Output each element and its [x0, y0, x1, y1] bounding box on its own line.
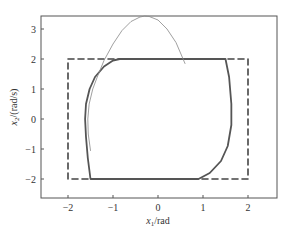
x-tick-label: 2 [246, 202, 251, 213]
plot-area [41, 16, 277, 198]
x-tick-label: 1 [201, 202, 206, 213]
y-tick-label: −1 [25, 144, 36, 155]
x-axis-label: x1/rad [145, 215, 170, 228]
y-tick-label: 2 [31, 54, 36, 65]
phase-portrait-chart: −2−1012 −2−10123 x1/rad x2/(rad/s) [0, 0, 287, 238]
y-tick-label: 0 [31, 114, 36, 125]
x-tick-label: −1 [108, 202, 119, 213]
y-axis-label: x2/(rad/s) [8, 89, 21, 127]
y-tick-label: 3 [31, 24, 36, 35]
y-tick-label: 1 [31, 84, 36, 95]
x-tick-label: −2 [63, 202, 74, 213]
x-tick-label: 0 [156, 202, 161, 213]
y-tick-label: −2 [25, 174, 36, 185]
